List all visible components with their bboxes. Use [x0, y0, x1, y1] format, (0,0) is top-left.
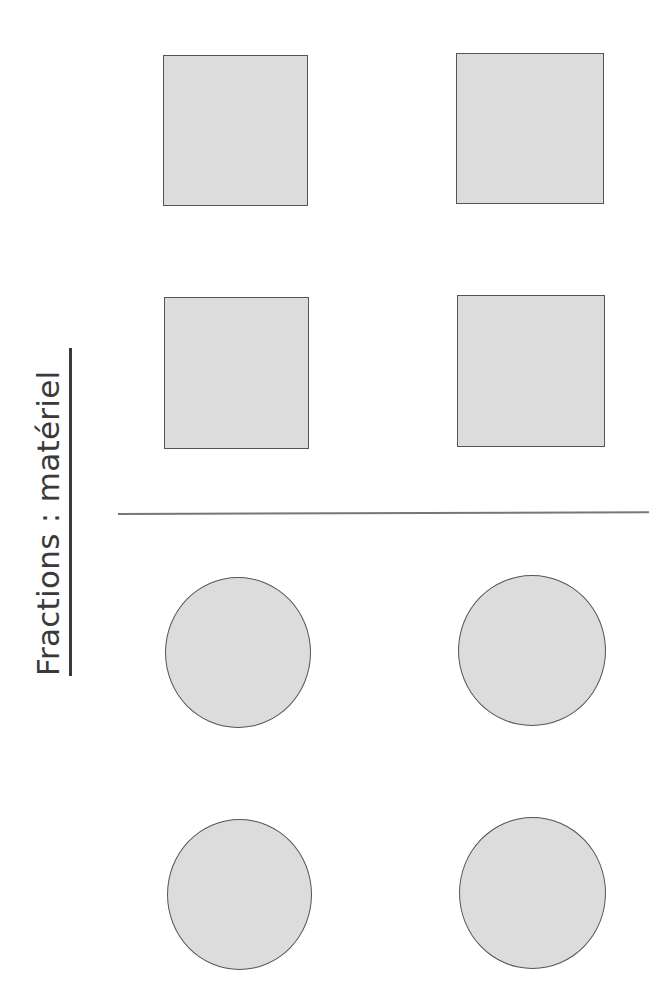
square-shape	[163, 55, 308, 206]
circle-shape	[458, 575, 606, 726]
square-shape	[164, 297, 309, 449]
circle-shape	[459, 817, 606, 969]
circle-shape	[167, 819, 312, 970]
section-divider	[118, 511, 649, 514]
square-shape	[456, 53, 604, 204]
page-title-block: Fractions : matériel	[30, 346, 72, 676]
title-underline	[69, 348, 72, 676]
page-title: Fractions : matériel	[30, 370, 66, 676]
circle-shape	[165, 577, 311, 728]
square-shape	[457, 295, 605, 447]
